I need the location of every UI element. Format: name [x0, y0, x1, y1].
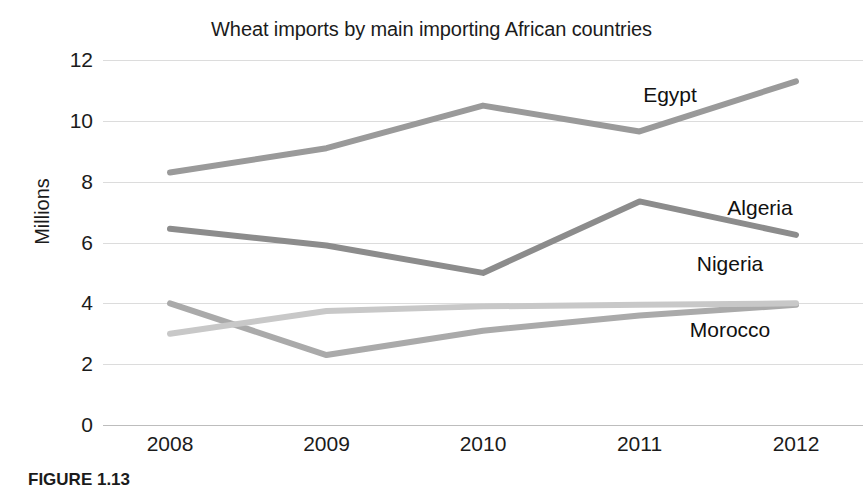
gridline: [103, 425, 863, 426]
y-axis-tick-label: 8: [81, 170, 93, 194]
figure-container: Wheat imports by main importing African …: [0, 0, 863, 486]
y-axis-tick-label: 2: [81, 352, 93, 376]
series-label-egypt: Egypt: [643, 83, 697, 107]
plot-area: 121086420 20082009201020112012 EgyptAlge…: [103, 60, 863, 425]
x-axis-tick-label: 2009: [303, 432, 350, 456]
x-axis-tick-label: 2010: [460, 432, 507, 456]
series-label-algeria: Algeria: [727, 196, 792, 220]
series-label-morocco: Morocco: [690, 318, 771, 342]
x-axis-tick-label: 2012: [773, 432, 820, 456]
series-lines-group: [103, 60, 863, 425]
y-axis-tick-label: 6: [81, 231, 93, 255]
series-line: [170, 81, 796, 172]
y-axis-tick-label: 12: [70, 48, 93, 72]
figure-caption: FIGURE 1.13: [28, 470, 130, 486]
chart-title: Wheat imports by main importing African …: [0, 18, 863, 41]
x-axis-tick-label: 2008: [147, 432, 194, 456]
y-axis-tick-label: 4: [81, 291, 93, 315]
y-axis-tick-label: 10: [70, 109, 93, 133]
x-axis-tick-label: 2011: [617, 432, 662, 456]
series-label-nigeria: Nigeria: [697, 252, 764, 276]
y-axis-tick-label: 0: [81, 413, 93, 437]
y-axis-title: Millions: [31, 152, 54, 272]
